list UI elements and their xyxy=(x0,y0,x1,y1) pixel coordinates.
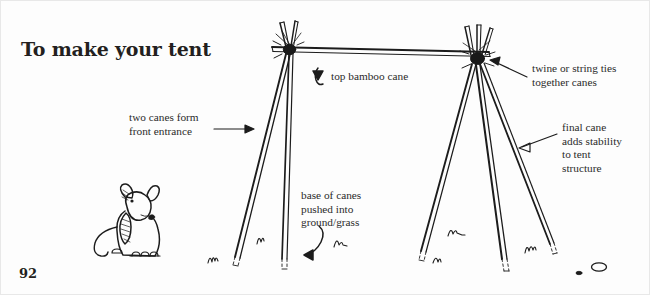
annotation-final-cane-adds-stability: final cane adds stability to tent struct… xyxy=(562,121,622,175)
arrow-two-canes xyxy=(214,125,254,133)
pebbles xyxy=(576,263,607,275)
arrow-twine xyxy=(490,57,527,77)
arrow-final-cane xyxy=(519,134,557,152)
left-front-cane xyxy=(233,54,290,266)
left-apex-cane-tips xyxy=(276,21,301,47)
annotation-twine-or-string-ties: twine or string ties together canes xyxy=(532,62,616,89)
annotation-base-of-canes: base of canes pushed into ground/grass xyxy=(301,189,361,230)
book-page: To make your tent 92 xyxy=(0,0,650,295)
tent-illustration xyxy=(1,1,650,295)
dog-illustration xyxy=(94,184,160,256)
annotation-two-canes-form-front-entrance: two canes form front entrance xyxy=(129,111,199,138)
ridge-pole-shape xyxy=(272,47,490,57)
grass-tufts xyxy=(208,230,536,263)
left-rear-cane xyxy=(282,54,293,269)
arrow-base-of-canes xyxy=(304,226,323,260)
right-cane-a xyxy=(419,64,476,261)
annotation-top-bamboo-cane: top bamboo cane xyxy=(331,70,408,84)
arrow-top-bamboo-cane xyxy=(313,68,323,85)
right-apex-cane-tips xyxy=(463,25,493,55)
right-cane-c xyxy=(480,63,557,254)
